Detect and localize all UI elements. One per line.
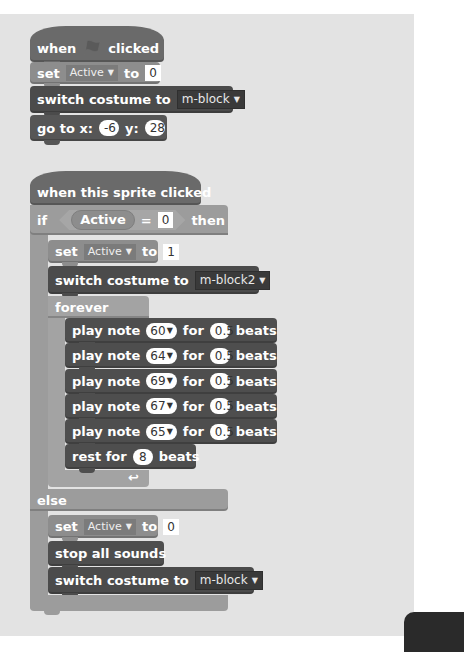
set-variable-block[interactable]: set Active ▼ to 1 [48,240,158,263]
if-else-bottom-arm [30,595,228,611]
variable-reporter[interactable]: Active [71,210,135,230]
costume-dropdown[interactable]: m-block ▼ [195,571,263,590]
loop-arrow-icon: ↩ [128,470,139,485]
corner-object [404,612,464,652]
costume-name: m-block [182,91,230,108]
switch-costume-block[interactable]: switch costume to m-block2 ▼ [48,266,259,294]
note-dropdown[interactable]: 67▼ [146,398,176,414]
when-sprite-clicked-block[interactable]: when this sprite clicked [30,171,201,205]
for-label: for [183,323,204,338]
set-label: set [37,66,60,81]
value-input[interactable]: 0 [163,519,179,535]
go-to-xy-block[interactable]: go to x: -6 y: 28 [30,115,167,141]
variable-dropdown[interactable]: Active ▼ [66,65,118,81]
variable-name: Active [88,244,122,260]
switch-costume-label: switch costume to [37,92,171,107]
go-to-x-label: go to x: [37,121,93,136]
play-note-block[interactable]: play note69▼for0.5beats [65,369,277,394]
beats-input[interactable]: 0.5 [210,348,230,364]
equals-condition[interactable]: Active = 0 [59,210,185,230]
beats-label: beats [236,374,277,389]
then-label: then [191,213,225,228]
green-flag-icon [82,40,102,56]
play-note-block[interactable]: play note65▼for0.5beats [65,419,277,444]
set-variable-block[interactable]: set Active ▼ to 0 [48,515,158,538]
rest-for-label: rest for [72,449,127,464]
forever-left-arm [48,296,65,486]
beats-label: beats [236,424,277,439]
switch-costume-block[interactable]: switch costume to m-block ▼ [30,86,233,113]
set-label: set [55,519,78,534]
when-flag-clicked-block[interactable]: when clicked [30,26,164,62]
variable-dropdown[interactable]: Active ▼ [84,244,136,260]
else-label: else [37,493,67,508]
costume-name: m-block2 [200,272,256,289]
play-note-label: play note [72,374,140,389]
rest-beats-input[interactable]: 8 [133,449,153,465]
dropdown-arrow-icon: ▼ [259,272,265,289]
note-value: 60 [150,323,165,339]
compare-value-input[interactable]: 0 [158,212,174,228]
play-note-block[interactable]: play note67▼for0.5beats [65,394,277,419]
if-else-left-arm [30,205,48,610]
forever-block-header[interactable]: forever [48,296,149,318]
beats-input[interactable]: 0.5 [210,398,230,414]
set-variable-block[interactable]: set Active ▼ to 0 [30,62,160,84]
y-label: y: [125,121,139,136]
to-label: to [142,519,157,534]
note-dropdown[interactable]: 65▼ [146,424,176,440]
variable-dropdown[interactable]: Active ▼ [84,519,136,535]
switch-costume-label: switch costume to [55,573,189,588]
costume-dropdown[interactable]: m-block ▼ [177,90,245,109]
y-input[interactable]: 28 [145,120,165,136]
dropdown-arrow-icon: ▼ [167,348,173,364]
switch-costume-block[interactable]: switch costume to m-block ▼ [48,567,254,594]
dropdown-arrow-icon: ▼ [167,424,173,440]
beats-label: beats [236,323,277,338]
rest-for-block[interactable]: rest for 8 beats [65,444,196,469]
variable-name: Active [70,65,104,81]
note-dropdown[interactable]: 69▼ [146,373,176,389]
beats-label: beats [236,348,277,363]
note-dropdown[interactable]: 60▼ [146,323,176,339]
dropdown-arrow-icon: ▼ [126,244,132,260]
play-note-block[interactable]: play note64▼for0.5beats [65,343,277,368]
costume-name: m-block [200,572,248,589]
beats-input[interactable]: 0.5 [210,373,230,389]
stop-all-sounds-block[interactable]: stop all sounds [48,541,164,566]
play-note-label: play note [72,424,140,439]
dropdown-arrow-icon: ▼ [167,398,173,414]
when-label: when [37,41,76,56]
x-input[interactable]: -6 [99,120,119,136]
dropdown-arrow-icon: ▼ [167,323,173,339]
forever-label: forever [55,300,109,315]
for-label: for [183,424,204,439]
beats-input[interactable]: 0.5 [210,424,230,440]
to-label: to [124,66,139,81]
if-label: if [37,213,47,228]
play-note-block[interactable]: play note60▼for0.5beats [65,318,277,343]
note-dropdown[interactable]: 64▼ [146,348,176,364]
dropdown-arrow-icon: ▼ [234,91,240,108]
note-value: 65 [150,424,165,440]
value-input[interactable]: 0 [145,65,161,81]
else-block: else [30,489,228,511]
beats-label: beats [236,399,277,414]
for-label: for [183,348,204,363]
note-value: 67 [150,398,165,414]
play-note-label: play note [72,348,140,363]
beats-label: beats [159,449,200,464]
play-note-label: play note [72,323,140,338]
for-label: for [183,399,204,414]
play-note-label: play note [72,399,140,414]
beats-input[interactable]: 0.5 [210,323,230,339]
costume-dropdown[interactable]: m-block2 ▼ [195,271,271,290]
dropdown-arrow-icon: ▼ [252,572,258,589]
switch-costume-label: switch costume to [55,273,189,288]
stop-all-sounds-label: stop all sounds [55,546,166,561]
for-label: for [183,374,204,389]
dropdown-arrow-icon: ▼ [126,519,132,535]
note-value: 69 [150,373,165,389]
if-block-header[interactable]: if Active = 0 then [30,205,228,235]
value-input[interactable]: 1 [163,244,179,260]
